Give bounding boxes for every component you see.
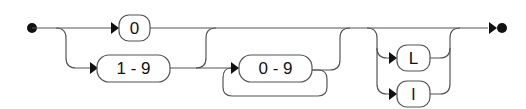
railroad-diagram: 0 1 - 9 0 - 9 L l bbox=[0, 0, 526, 109]
arrow-icon bbox=[111, 22, 119, 34]
token-label-zero: 0 bbox=[130, 19, 139, 38]
track-merge-L bbox=[430, 28, 460, 58]
track-branch-L bbox=[367, 28, 389, 58]
track-merge-up-2 bbox=[312, 28, 350, 70]
track-merge-l bbox=[430, 48, 450, 94]
token-label-upper-l: L bbox=[409, 49, 418, 68]
token-label-lower-l: l bbox=[412, 85, 416, 104]
arrow-icon bbox=[231, 62, 239, 74]
arrow-icon bbox=[389, 88, 397, 100]
end-dot bbox=[497, 23, 507, 33]
end-arrow-icon bbox=[489, 22, 497, 34]
track-merge-up bbox=[170, 28, 216, 68]
token-label-zero-to-nine: 0 - 9 bbox=[258, 59, 292, 78]
token-label-one-to-nine: 1 - 9 bbox=[116, 59, 150, 78]
track-branch-1-9 bbox=[56, 28, 90, 68]
arrow-icon bbox=[389, 52, 397, 64]
